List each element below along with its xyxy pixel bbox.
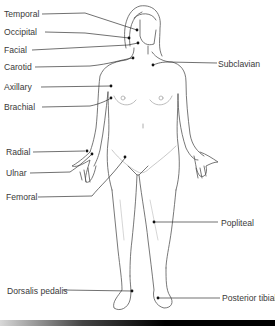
label-axillary: Axillary	[4, 82, 32, 92]
label-temporal: Temporal	[4, 9, 39, 19]
label-femoral: Femoral	[6, 192, 38, 202]
femoral-dot	[124, 156, 127, 159]
axillary-dot	[110, 85, 113, 88]
label-radial: Radial	[6, 147, 30, 157]
label-subclavian: Subclavian	[218, 59, 260, 69]
pulse-dots	[86, 29, 160, 300]
label-brachial: Brachial	[4, 102, 35, 112]
label-facial: Facial	[4, 45, 27, 55]
ulnar-dot	[91, 153, 94, 156]
bottom-border-bar	[0, 320, 275, 326]
label-occipital: Occipital	[4, 27, 37, 37]
facial-dot	[137, 42, 140, 45]
posterior-tibial-dot	[157, 297, 160, 300]
label-posterior-tibial: Posterior tibial	[222, 293, 275, 303]
temporal-dot	[136, 29, 139, 32]
carotid-dot	[132, 57, 135, 60]
occipital-dot	[128, 37, 131, 40]
label-popliteal: Popliteal	[221, 218, 254, 228]
body-diagram	[0, 0, 275, 326]
leader-lines	[30, 13, 220, 298]
dorsalis-pedalis-dot	[131, 290, 134, 293]
label-dorsalis-pedalis: Dorsalis pedalis	[7, 286, 68, 296]
radial-dot	[86, 150, 89, 153]
label-carotid: Carotid	[4, 62, 32, 72]
label-ulnar: Ulnar	[6, 168, 27, 178]
subclavian-dot	[152, 64, 155, 67]
popliteal-dot	[153, 221, 156, 224]
female-figure	[72, 6, 218, 310]
brachial-dot	[110, 97, 113, 100]
